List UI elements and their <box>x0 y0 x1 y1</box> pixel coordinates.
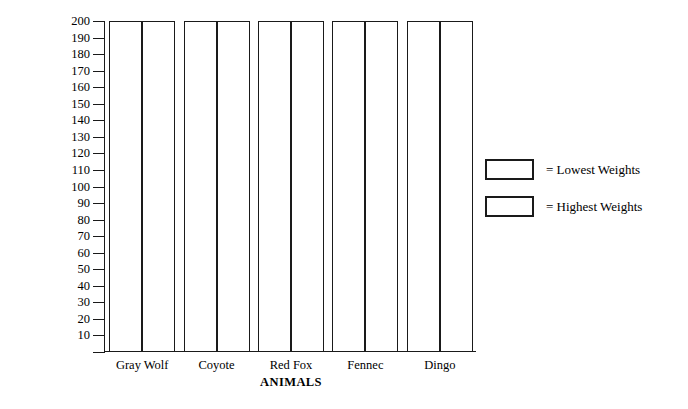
legend-swatch <box>485 159 534 180</box>
bar <box>142 21 175 352</box>
y-axis-tick-label: 50 <box>58 263 90 275</box>
bar-group <box>403 21 477 352</box>
legend-swatch <box>485 196 534 217</box>
y-axis-tick-label: 130 <box>58 131 90 143</box>
y-axis-tick-label: 140 <box>58 114 90 126</box>
y-axis-tick-label: 120 <box>58 147 90 159</box>
bar <box>109 21 142 352</box>
bar-group <box>105 21 179 352</box>
y-axis-tick-label: 80 <box>58 214 90 226</box>
x-axis-category-label: Fennec <box>328 357 402 373</box>
y-axis-tick-label: 40 <box>58 280 90 292</box>
y-axis-tick-label: 30 <box>58 296 90 308</box>
legend-item: = Lowest Weights <box>485 158 685 180</box>
bar <box>332 21 365 352</box>
y-axis-tick-label: 200 <box>58 15 90 27</box>
y-axis-tick-label: 100 <box>58 181 90 193</box>
bar-group <box>179 21 253 352</box>
y-axis-tick-label: 90 <box>58 197 90 209</box>
bar-chart: Weight in Pounds 20019018017016015014013… <box>0 0 688 409</box>
bar <box>407 21 440 352</box>
bar <box>217 21 250 352</box>
bar <box>258 21 291 352</box>
legend-label: = Lowest Weights <box>546 159 640 180</box>
plot-area <box>105 21 477 352</box>
y-axis-tick-label: 60 <box>58 247 90 259</box>
y-axis-tick-label: 190 <box>58 32 90 44</box>
y-axis-tick-label: 160 <box>58 81 90 93</box>
y-axis-tick-label: 170 <box>58 65 90 77</box>
x-axis-category-labels: Gray WolfCoyoteRed FoxFennecDingo <box>105 357 477 375</box>
legend-label: = Highest Weights <box>546 196 642 217</box>
bar <box>291 21 324 352</box>
x-axis-category-label: Dingo <box>403 357 477 373</box>
y-axis-tick-label: 110 <box>58 164 90 176</box>
y-axis-tick-label: 180 <box>58 48 90 60</box>
legend-item: = Highest Weights <box>485 195 685 217</box>
x-axis-category-label: Gray Wolf <box>105 357 179 373</box>
y-axis-tick-label: 20 <box>58 313 90 325</box>
bar-group <box>254 21 328 352</box>
bar <box>184 21 217 352</box>
legend: = Lowest Weights= Highest Weights <box>485 158 685 232</box>
y-axis-tick-label: 150 <box>58 98 90 110</box>
x-axis-category-label: Coyote <box>179 357 253 373</box>
x-axis-title: ANIMALS <box>105 375 477 390</box>
bar <box>365 21 398 352</box>
bar-group <box>328 21 402 352</box>
y-axis-tick-labels: 2001901801701601501401301201101009080706… <box>56 0 90 409</box>
y-axis-tick-mark-zero <box>93 352 105 353</box>
y-axis-tick-label: 10 <box>58 329 90 341</box>
x-axis-category-label: Red Fox <box>254 357 328 373</box>
y-axis-tick-label: 70 <box>58 230 90 242</box>
bar <box>440 21 473 352</box>
